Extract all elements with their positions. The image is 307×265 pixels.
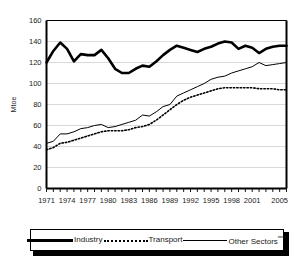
x-axis-tick-label: 1983 <box>120 196 137 205</box>
legend-label-other-sectors: Other Sectors**** <box>227 235 287 246</box>
legend-label-transport: Transport <box>148 236 184 244</box>
y-axis-tick-label: 60 <box>33 121 41 130</box>
x-axis-tick-label: 1989 <box>162 196 179 205</box>
y-axis-tick-labels: 020406080100120140160 <box>29 16 42 193</box>
x-axis-tick-labels: 1971197419771980198319861989199219951998… <box>38 196 288 205</box>
x-axis-tick-label: 1971 <box>38 196 55 205</box>
data-series-lines <box>47 42 287 150</box>
x-axis-tick-label: 1998 <box>223 196 240 205</box>
legend-item-other-sectors: Other Sectors**** <box>183 235 287 246</box>
x-axis-tick-label: 1977 <box>79 196 96 205</box>
y-axis-tick-label: 140 <box>29 37 42 46</box>
y-axis-tick-label: 120 <box>29 58 42 67</box>
dotted-line-icon <box>104 236 148 244</box>
series-line-industry <box>47 42 287 74</box>
x-axis-tick-label: 2001 <box>244 196 261 205</box>
x-axis-tick-label: 1980 <box>100 196 117 205</box>
y-axis-title: Mtoe <box>8 74 20 134</box>
grid-lines <box>47 21 287 168</box>
y-axis-tick-label: 80 <box>33 100 41 109</box>
series-line-transport <box>47 88 287 150</box>
y-axis-tick-label: 20 <box>33 163 41 172</box>
line-chart-figure: 020406080100120140160 197119741977198019… <box>0 0 307 265</box>
chart-legend: Industry Transport Other Sectors**** <box>30 229 284 251</box>
chart-svg: 020406080100120140160 197119741977198019… <box>0 0 307 210</box>
thick-solid-line-icon <box>27 236 73 244</box>
legend-label-other-sectors-text: Other Sectors <box>228 236 277 245</box>
legend-item-industry: Industry <box>27 236 103 244</box>
y-axis-tick-label: 40 <box>33 142 41 151</box>
thin-solid-line-icon <box>183 236 227 244</box>
legend-label-industry: Industry <box>73 236 103 244</box>
series-line-other-sectors <box>47 63 287 144</box>
legend-item-transport: Transport <box>104 236 184 244</box>
x-axis-tick-label: 1986 <box>141 196 158 205</box>
legend-footnote-asterisks: **** <box>278 235 286 241</box>
x-axis-tick-label: 1992 <box>182 196 199 205</box>
y-axis-tick-label: 0 <box>37 184 41 193</box>
y-axis-title-label: Mtoe <box>11 96 18 112</box>
y-axis-tick-label: 100 <box>29 79 42 88</box>
x-axis-tick-label: 2005 <box>271 196 288 205</box>
y-axis-tick-label: 160 <box>29 16 42 25</box>
x-axis-tick-label: 1974 <box>59 196 76 205</box>
x-axis-tick-label: 1995 <box>203 196 220 205</box>
plot-area: 020406080100120140160 197119741977198019… <box>0 0 307 210</box>
